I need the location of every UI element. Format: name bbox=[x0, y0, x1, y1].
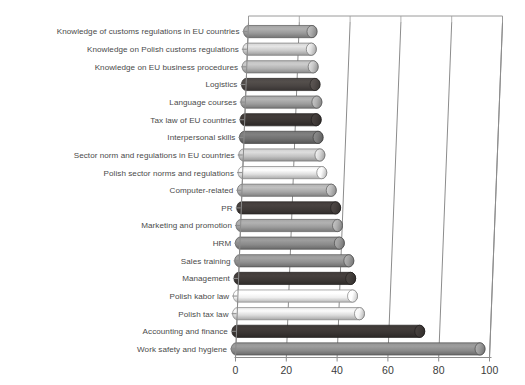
category-label: Logistics bbox=[205, 80, 237, 89]
bar-body bbox=[239, 149, 325, 161]
bar-body bbox=[235, 255, 354, 267]
bar-body bbox=[244, 25, 318, 37]
bar-cylinder bbox=[237, 202, 341, 214]
category-label: Computer-related bbox=[170, 186, 234, 195]
bar-end-cap bbox=[334, 237, 344, 249]
grid-lines-group bbox=[249, 16, 503, 23]
bar-chart-3d: Knowledge of customs regulations in EU c… bbox=[0, 0, 525, 385]
bar-cylinder bbox=[232, 325, 425, 337]
bar-body bbox=[233, 308, 365, 320]
bar-cylinder bbox=[240, 114, 321, 126]
category-labels-group: Knowledge of customs regulations in EU c… bbox=[57, 27, 240, 353]
bar-cylinder bbox=[239, 131, 323, 143]
bar-end-cap bbox=[354, 308, 364, 320]
bar-end-cap bbox=[344, 255, 354, 267]
bar-cylinder bbox=[241, 78, 320, 90]
bars-group bbox=[231, 25, 485, 355]
bar-body bbox=[231, 343, 485, 355]
bar-cylinder bbox=[239, 149, 325, 161]
bar-cylinder bbox=[235, 255, 354, 267]
bar-cylinder bbox=[242, 61, 318, 73]
floor-right-edge bbox=[490, 23, 503, 358]
bar-body bbox=[240, 114, 321, 126]
category-label: Marketing and promotion bbox=[141, 221, 232, 230]
bar-cylinder bbox=[241, 96, 322, 108]
bar-body bbox=[241, 96, 322, 108]
x-tick-label: 40 bbox=[331, 364, 343, 376]
bar-body bbox=[235, 237, 344, 249]
bar-end-cap bbox=[326, 184, 336, 196]
bar-body bbox=[243, 43, 317, 55]
category-label: Polish kabor law bbox=[170, 292, 230, 301]
category-label: Accounting and finance bbox=[143, 327, 229, 336]
bar-cylinder bbox=[244, 25, 318, 37]
category-label: Polish sector norms and regulations bbox=[104, 169, 234, 178]
bar-end-cap bbox=[312, 96, 322, 108]
category-label: Knowledge of customs regulations in EU c… bbox=[57, 27, 240, 36]
bar-body bbox=[238, 167, 327, 179]
x-tick-label: 0 bbox=[233, 364, 239, 376]
bar-end-cap bbox=[307, 25, 317, 37]
bar-body bbox=[239, 131, 323, 143]
bar-end-cap bbox=[308, 61, 318, 73]
bar-end-cap bbox=[310, 78, 320, 90]
bar-body bbox=[237, 202, 341, 214]
category-label: Management bbox=[182, 274, 230, 283]
category-label: Knowledge on EU business procedures bbox=[95, 63, 238, 72]
category-label: Sector norm and regulations in EU countr… bbox=[74, 151, 235, 160]
bar-body bbox=[237, 184, 336, 196]
bar-body bbox=[234, 272, 356, 284]
bar-cylinder bbox=[235, 237, 344, 249]
bar-body bbox=[242, 61, 318, 73]
bar-cylinder bbox=[236, 219, 343, 231]
bar-body bbox=[232, 325, 425, 337]
category-label: Work safety and hygiene bbox=[137, 345, 228, 354]
x-tick-label: 100 bbox=[481, 364, 499, 376]
bar-end-cap bbox=[311, 114, 321, 126]
category-label: Interpersonal skills bbox=[167, 133, 235, 142]
bar-end-cap bbox=[475, 343, 485, 355]
bar-end-cap bbox=[313, 131, 323, 143]
bar-end-cap bbox=[415, 325, 425, 337]
bar-cylinder bbox=[243, 43, 317, 55]
x-tick-label: 60 bbox=[382, 364, 394, 376]
bar-cylinder bbox=[233, 308, 365, 320]
chart-svg: Knowledge of customs regulations in EU c… bbox=[0, 0, 525, 385]
bar-end-cap bbox=[348, 290, 358, 302]
floor-depth-line-60 bbox=[388, 23, 401, 358]
x-tick-label: 80 bbox=[433, 364, 445, 376]
bar-end-cap bbox=[346, 272, 356, 284]
category-label: PR bbox=[221, 204, 232, 213]
bar-body bbox=[241, 78, 320, 90]
category-label: Knowledge on Polish customs regulations bbox=[87, 45, 239, 54]
category-label: Language courses bbox=[169, 98, 236, 107]
bar-cylinder bbox=[231, 343, 485, 355]
bar-cylinder bbox=[238, 167, 327, 179]
x-tick-labels-group: 020406080100 bbox=[233, 364, 499, 376]
bar-end-cap bbox=[317, 167, 327, 179]
bar-body bbox=[236, 219, 343, 231]
bar-cylinder bbox=[237, 184, 336, 196]
bar-end-cap bbox=[331, 202, 341, 214]
category-label: Polish tax law bbox=[178, 310, 228, 319]
category-label: Sales training bbox=[181, 257, 231, 266]
bar-end-cap bbox=[315, 149, 325, 161]
x-tick-label: 20 bbox=[280, 364, 292, 376]
bar-body bbox=[233, 290, 357, 302]
floor-depth-line-80 bbox=[439, 23, 452, 358]
bar-end-cap bbox=[332, 219, 342, 231]
bar-cylinder bbox=[233, 290, 357, 302]
category-label: Tax law of EU countries bbox=[150, 116, 236, 125]
category-label: HRM bbox=[213, 239, 232, 248]
bar-cylinder bbox=[234, 272, 356, 284]
bar-end-cap bbox=[306, 43, 316, 55]
